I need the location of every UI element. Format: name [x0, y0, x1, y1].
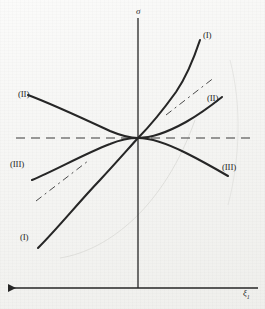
- x-axis-label-subscript: 1: [247, 294, 250, 300]
- curve-label-II-right: (II): [207, 93, 218, 103]
- curve-I: [38, 40, 200, 248]
- curve-III-left-branch: [28, 95, 228, 176]
- x-axis-arrowhead: [8, 284, 16, 292]
- scan-artifact-arc: [60, 120, 195, 258]
- curve-label-I-bottom: (I): [20, 232, 28, 242]
- figure-container: σ ξ1 (I) (II) (III) (II) (III) (I): [0, 0, 265, 309]
- curve-label-III-left: (III): [10, 159, 24, 169]
- scan-artifact-arc-right: [228, 60, 238, 205]
- plot-canvas: [0, 0, 265, 309]
- x-axis-label: ξ1: [243, 288, 250, 300]
- y-axis-label: σ: [136, 6, 140, 16]
- curve-label-II-left: (II): [18, 89, 29, 99]
- curve-label-I-top: (I): [203, 30, 211, 40]
- curve-label-III-right: (III): [222, 162, 236, 172]
